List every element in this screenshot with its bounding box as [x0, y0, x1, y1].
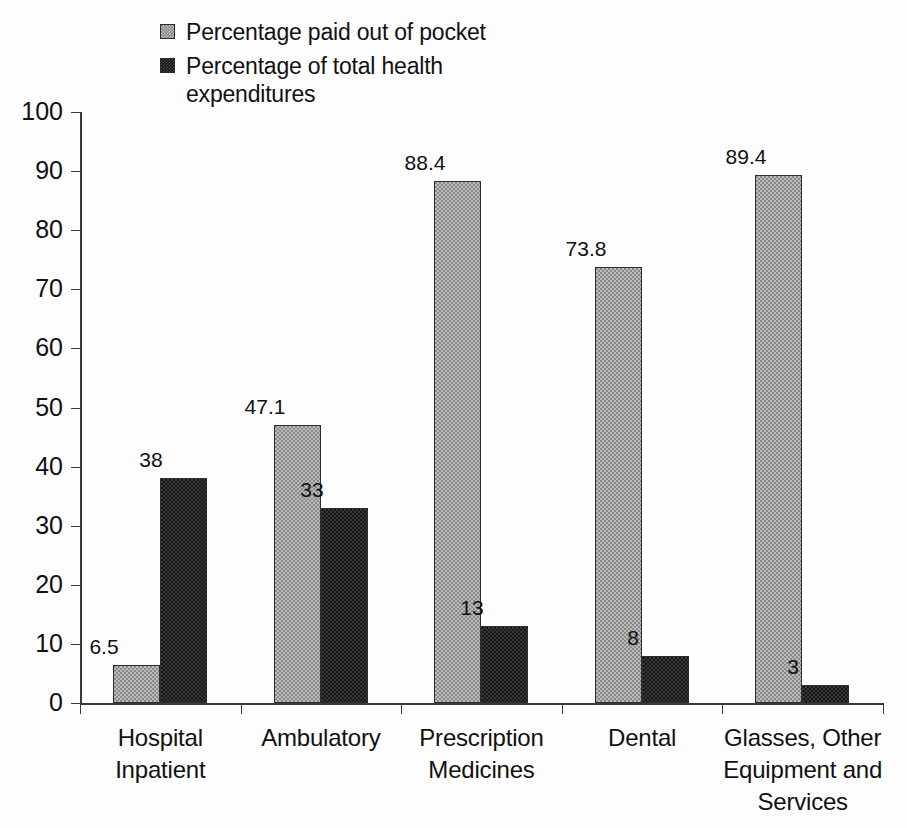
bar-series-b[interactable] — [802, 685, 849, 703]
x-axis-line — [80, 703, 883, 705]
bar-value-label: 33 — [267, 479, 357, 501]
y-axis-tick: 50 — [71, 408, 80, 409]
y-axis-tick: 70 — [71, 289, 80, 290]
y-axis-tick: 100 — [71, 112, 80, 113]
bar-group: 89.43 — [722, 112, 883, 703]
x-axis-tick — [722, 703, 723, 714]
bar-value-label: 47.1 — [220, 396, 310, 418]
y-axis-tick-label: 70 — [35, 275, 63, 301]
category-label-line: Hospital — [72, 722, 249, 754]
bar-group: 88.413 — [401, 112, 562, 703]
y-axis-tick: 20 — [71, 585, 80, 586]
y-axis-tick: 60 — [71, 348, 80, 349]
bar-series-a[interactable] — [113, 665, 160, 703]
bar-series-b[interactable] — [321, 508, 368, 703]
bar-value-label: 38 — [106, 449, 196, 471]
bar-series-b[interactable] — [481, 626, 528, 703]
bar-series-a[interactable] — [434, 181, 481, 703]
bar-series-a[interactable] — [274, 425, 321, 703]
x-axis-tick — [401, 703, 402, 714]
bar-chart-figure: Percentage paid out of pocket Percentage… — [0, 0, 907, 828]
y-axis-tick-label: 30 — [35, 512, 63, 538]
bar-value-label: 3 — [748, 656, 838, 678]
y-axis-tick-label: 90 — [35, 157, 63, 183]
category-label-line: Medicines — [393, 754, 570, 786]
y-axis-tick-label: 40 — [35, 453, 63, 479]
y-axis-tick-label: 50 — [35, 394, 63, 420]
plot-area: 0102030405060708090100 6.53847.13388.413… — [80, 112, 883, 703]
bar-series-b[interactable] — [642, 656, 689, 703]
category-label-line: Services — [714, 786, 891, 818]
x-axis-category-label: PrescriptionMedicines — [393, 722, 570, 786]
x-axis-tick — [241, 703, 242, 714]
x-axis-tick — [562, 703, 563, 714]
y-axis-tick-label: 100 — [21, 98, 63, 124]
y-axis-tick-label: 60 — [35, 334, 63, 360]
legend-label-series-a: Percentage paid out of pocket — [186, 18, 486, 46]
x-axis-tick — [883, 703, 884, 714]
legend-swatch-icon-series-b — [160, 58, 175, 73]
x-axis-category-label: Dental — [554, 722, 731, 754]
y-axis-tick: 80 — [71, 230, 80, 231]
bar-value-label: 8 — [588, 627, 678, 649]
legend-item-series-b: Percentage of total health expenditures — [160, 52, 580, 108]
x-axis-category-label: HospitalInpatient — [72, 722, 249, 786]
category-label-line: Dental — [554, 722, 731, 754]
y-axis-tick-label: 80 — [35, 216, 63, 242]
category-label-line: Inpatient — [72, 754, 249, 786]
x-axis-category-label: Glasses, OtherEquipment andServices — [714, 722, 891, 818]
legend-item-series-a: Percentage paid out of pocket — [160, 18, 580, 46]
x-axis-category-label: Ambulatory — [233, 722, 410, 754]
category-label-line: Equipment and — [714, 754, 891, 786]
y-axis-tick: 90 — [71, 171, 80, 172]
bar-value-label: 6.5 — [59, 636, 149, 658]
x-axis-tick — [80, 703, 81, 714]
bar-series-b[interactable] — [160, 478, 207, 703]
y-axis-tick-label: 0 — [49, 689, 63, 715]
y-axis-tick: 30 — [71, 526, 80, 527]
bar-group: 47.133 — [241, 112, 402, 703]
category-label-line: Glasses, Other — [714, 722, 891, 754]
y-axis-tick-label: 20 — [35, 571, 63, 597]
chart-legend: Percentage paid out of pocket Percentage… — [160, 18, 580, 114]
category-label-line: Prescription — [393, 722, 570, 754]
bar-value-label: 89.4 — [701, 146, 791, 168]
legend-label-series-b: Percentage of total health expenditures — [186, 52, 556, 108]
bar-value-label: 73.8 — [541, 238, 631, 260]
bar-value-label: 13 — [427, 597, 517, 619]
category-label-line: Ambulatory — [233, 722, 410, 754]
bar-value-label: 88.4 — [380, 152, 470, 174]
bar-group: 73.88 — [562, 112, 723, 703]
y-axis-tick: 40 — [71, 467, 80, 468]
y-axis-tick: 0 — [71, 703, 80, 704]
bar-series-a[interactable] — [755, 175, 802, 703]
legend-swatch-icon-series-a — [160, 24, 175, 39]
bar-group: 6.538 — [80, 112, 241, 703]
